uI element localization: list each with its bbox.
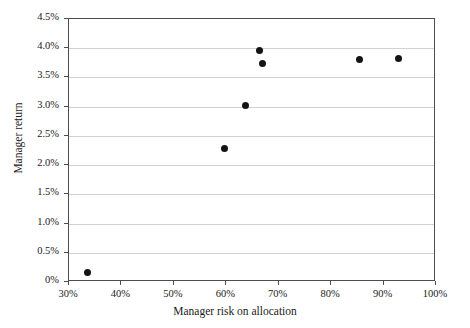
gridline — [69, 194, 434, 195]
x-tick-label: 50% — [143, 288, 203, 299]
y-tick-label: 0.5% — [0, 245, 59, 256]
x-tick-mark — [225, 281, 226, 285]
data-point — [356, 56, 363, 63]
y-tick-mark — [64, 47, 68, 48]
data-point — [259, 60, 266, 67]
data-point — [395, 55, 402, 62]
gridline — [69, 107, 434, 108]
x-tick-label: 60% — [195, 288, 255, 299]
scatter-chart-figure: 0%0.5%1.0%1.5%2.0%2.5%3.0%3.5%4.0%4.5% 3… — [0, 0, 470, 328]
y-tick-mark — [64, 135, 68, 136]
data-point — [221, 145, 228, 152]
y-tick-label: 3.0% — [0, 99, 59, 110]
gridline — [69, 48, 434, 49]
x-tick-label: 80% — [300, 288, 360, 299]
x-tick-label: 40% — [90, 288, 150, 299]
y-tick-label: 3.5% — [0, 69, 59, 80]
x-tick-mark — [330, 281, 331, 285]
plot-area — [68, 18, 435, 281]
y-tick-mark — [64, 18, 68, 19]
x-tick-label: 70% — [248, 288, 308, 299]
x-tick-label: 30% — [38, 288, 98, 299]
y-tick-mark — [64, 106, 68, 107]
x-tick-mark — [173, 281, 174, 285]
y-tick-mark — [64, 193, 68, 194]
y-tick-mark — [64, 164, 68, 165]
y-tick-label: 1.0% — [0, 216, 59, 227]
x-tick-mark — [68, 281, 69, 285]
x-tick-mark — [383, 281, 384, 285]
x-tick-mark — [435, 281, 436, 285]
y-tick-mark — [64, 252, 68, 253]
gridline — [69, 253, 434, 254]
y-tick-label: 4.5% — [0, 11, 59, 22]
y-tick-label: 2.5% — [0, 128, 59, 139]
y-tick-label: 0% — [0, 274, 59, 285]
y-tick-mark — [64, 223, 68, 224]
y-axis-title: Manager return — [12, 68, 24, 208]
y-tick-mark — [64, 76, 68, 77]
x-tick-mark — [278, 281, 279, 285]
gridline — [69, 77, 434, 78]
x-tick-label: 100% — [405, 288, 465, 299]
gridline — [69, 165, 434, 166]
x-tick-label: 90% — [353, 288, 413, 299]
y-tick-label: 1.5% — [0, 186, 59, 197]
data-point — [84, 269, 91, 276]
gridline — [69, 136, 434, 137]
gridline — [69, 224, 434, 225]
x-axis-title: Manager risk on allocation — [0, 305, 470, 317]
data-point — [256, 47, 263, 54]
y-tick-label: 4.0% — [0, 40, 59, 51]
y-tick-label: 2.0% — [0, 157, 59, 168]
x-tick-mark — [120, 281, 121, 285]
